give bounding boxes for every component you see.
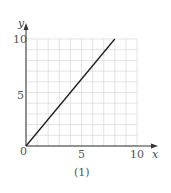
grid bbox=[26, 39, 137, 146]
x-tick-5: 5 bbox=[78, 148, 85, 161]
y-axis-label: y bbox=[17, 17, 25, 30]
figure-caption: (1) bbox=[74, 166, 90, 179]
y-axis-arrow-icon bbox=[24, 23, 29, 30]
origin-label: 0 bbox=[20, 145, 27, 158]
y-tick-10: 10 bbox=[13, 33, 27, 46]
axes bbox=[24, 23, 159, 149]
chart: y x 0 10 5 5 10 (1) bbox=[0, 0, 171, 193]
x-tick-10: 10 bbox=[130, 148, 144, 161]
y-tick-5: 5 bbox=[17, 89, 24, 102]
x-axis-label: x bbox=[152, 148, 159, 161]
